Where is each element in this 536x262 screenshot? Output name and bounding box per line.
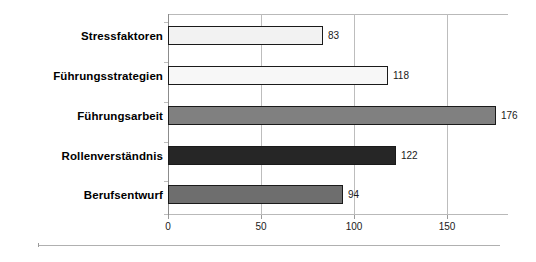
bar-fuehrungsarbeit bbox=[168, 106, 496, 125]
bar-value-fuehrungsstrategien: 118 bbox=[393, 66, 409, 85]
y-axis-tick-3 bbox=[164, 142, 168, 143]
y-axis-tick-4 bbox=[164, 181, 168, 182]
x-axis-tick-0 bbox=[168, 215, 169, 219]
category-label-fuehrungsarbeit: Führungsarbeit bbox=[0, 110, 163, 122]
y-axis-tick-0 bbox=[164, 22, 168, 23]
bar-fuehrungsstrategien bbox=[168, 66, 388, 85]
x-axis-label-150: 150 bbox=[439, 221, 456, 232]
y-axis-tick-2 bbox=[164, 102, 168, 103]
x-axis-tick-50 bbox=[261, 215, 262, 219]
bar-stressfaktoren bbox=[168, 26, 323, 45]
category-label-stressfaktoren: Stressfaktoren bbox=[0, 30, 163, 42]
plot-bottom-border bbox=[168, 214, 508, 215]
footer-rule bbox=[38, 245, 500, 246]
bar-value-fuehrungsarbeit: 176 bbox=[501, 106, 518, 125]
bar-value-berufsentwurf: 94 bbox=[348, 185, 359, 204]
category-label-fuehrungsstrategien: Führungsstrategien bbox=[0, 70, 163, 82]
bar-value-stressfaktoren: 83 bbox=[328, 26, 339, 45]
plot-top-border bbox=[168, 14, 508, 15]
y-axis-tick-1 bbox=[164, 62, 168, 63]
plot-area: 0 50 100 150 83 118 176 122 94 bbox=[168, 14, 508, 215]
category-label-rollenverstaendnis: Rollenverständnis bbox=[0, 150, 163, 162]
footer-rule-cap bbox=[38, 243, 39, 247]
x-axis-tick-100 bbox=[354, 215, 355, 219]
bar-chart-figure: Stressfaktoren Führungsstrategien Führun… bbox=[0, 0, 536, 262]
x-axis-tick-150 bbox=[447, 215, 448, 219]
category-axis-labels: Stressfaktoren Führungsstrategien Führun… bbox=[0, 0, 163, 215]
bar-berufsentwurf bbox=[168, 185, 343, 204]
bar-value-rollenverstaendnis: 122 bbox=[401, 146, 418, 165]
bar-rollenverstaendnis bbox=[168, 146, 396, 165]
x-axis-label-50: 50 bbox=[255, 221, 266, 232]
category-label-berufsentwurf: Berufsentwurf bbox=[0, 189, 163, 201]
x-axis-label-100: 100 bbox=[346, 221, 363, 232]
x-axis-label-0: 0 bbox=[165, 221, 171, 232]
